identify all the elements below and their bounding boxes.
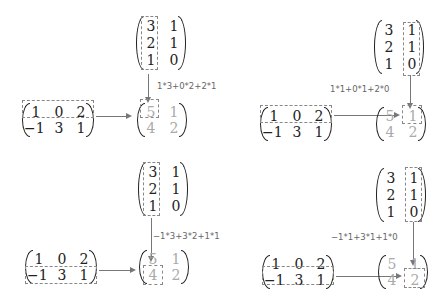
a-cell: 3 <box>52 121 66 135</box>
b-cell: 2 <box>384 188 398 202</box>
highlight-row <box>260 105 332 123</box>
a-cell: −1 <box>262 125 282 139</box>
c-cell: 2 <box>406 125 420 139</box>
computation-label: −1*3+3*2+1*1 <box>153 231 220 241</box>
a-cell: 1 <box>312 125 326 139</box>
c-cell: 4 <box>385 273 399 287</box>
c-cell: 1 <box>169 252 183 266</box>
arrow-down <box>410 75 411 105</box>
computation-label: 1*3+0*2+2*1 <box>157 81 216 91</box>
a-cell: 3 <box>290 125 304 139</box>
b-cell: 3 <box>384 171 398 185</box>
c-cell: 5 <box>146 252 160 266</box>
arrow-right <box>99 270 132 271</box>
arrow-head <box>130 267 136 273</box>
highlight-column <box>403 22 420 76</box>
c-cell: 1 <box>167 105 181 119</box>
a-cell: 0 <box>55 252 69 266</box>
left-paren <box>374 20 382 74</box>
highlight-column <box>143 162 160 216</box>
b-cell: 1 <box>384 205 398 219</box>
a-cell: 2 <box>77 252 91 266</box>
arrow-right <box>96 116 128 117</box>
highlight-column <box>405 167 422 222</box>
c-cell: 5 <box>385 257 399 271</box>
arrow-down <box>148 74 149 99</box>
b-cell: 3 <box>382 23 396 37</box>
c-cell: 4 <box>383 125 397 139</box>
highlight-result-cell <box>404 268 425 288</box>
computation-label: 1*1+0*1+2*0 <box>330 84 389 94</box>
b-cell: 0 <box>167 53 181 67</box>
highlight-column <box>141 16 158 70</box>
c-cell: 2 <box>167 121 181 135</box>
panel-row2-col1: 3 1 2 1 1 0 −1*3+3*2+1*1 1 0 2 −1 3 1 5 … <box>0 150 223 300</box>
a-cell: 1 <box>74 121 88 135</box>
left-paren <box>376 168 384 222</box>
panel-row1-col2: 3 1 2 1 1 0 1*1+0*1+2*0 1 0 2 −1 3 1 5 1… <box>224 0 447 150</box>
arrow-head <box>126 113 132 119</box>
highlight-row <box>262 266 334 285</box>
a-cell: 1 <box>32 252 46 266</box>
panel-row2-col2: 3 1 2 1 1 0 −1*1+3*1+1*0 1 0 2 −1 3 1 5 … <box>224 150 447 300</box>
b-cell: 1 <box>167 19 181 33</box>
b-cell: 1 <box>382 57 396 71</box>
b-cell: 1 <box>169 165 183 179</box>
panel-row1-col1: 3 1 2 1 1 0 1*3+0*2+2*1 1 0 2 −1 3 1 5 1… <box>0 0 223 150</box>
highlight-result-cell <box>402 105 422 124</box>
b-cell: 0 <box>169 199 183 213</box>
c-cell: 4 <box>144 121 158 135</box>
b-cell: 1 <box>169 182 183 196</box>
c-cell: 2 <box>169 268 183 282</box>
highlight-result-cell <box>143 265 163 285</box>
computation-label: −1*1+3*1+1*0 <box>331 232 398 242</box>
c-cell: 5 <box>383 109 397 123</box>
b-cell: 2 <box>382 40 396 54</box>
highlight-row <box>22 100 94 118</box>
highlight-row <box>25 266 97 284</box>
a-cell: −1 <box>24 121 44 135</box>
highlight-result-cell <box>140 99 159 118</box>
b-cell: 1 <box>167 36 181 50</box>
